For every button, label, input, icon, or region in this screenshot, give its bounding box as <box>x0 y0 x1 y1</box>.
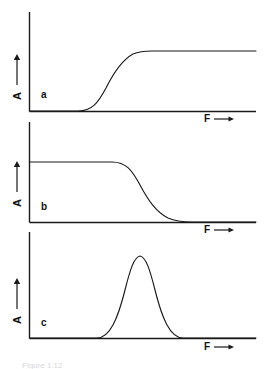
panel-b-plot <box>0 121 267 232</box>
right-arrow-icon <box>213 342 235 352</box>
panel-b: A b F <box>0 121 267 232</box>
panel-c-x-axis-label: F <box>204 342 210 352</box>
panel-a-curve <box>30 51 256 111</box>
panel-a-y-axis-label-group: A <box>8 52 26 108</box>
panel-c-curve <box>30 256 256 338</box>
panel-b-letter: b <box>41 202 47 212</box>
panel-b-curve <box>30 162 256 222</box>
panel-a-plot <box>0 0 267 121</box>
panel-c: A c F <box>0 232 267 369</box>
up-arrow-icon <box>8 276 26 310</box>
panel-c-y-axis-label: A <box>11 311 23 329</box>
figure-caption: Figure 1.12 <box>22 361 62 369</box>
figure-container: A a F A b <box>0 0 267 369</box>
panel-c-x-axis-label-group: F <box>204 342 235 352</box>
panel-a: A a F <box>0 0 267 121</box>
panel-c-y-axis-label-group: A <box>8 276 26 332</box>
up-arrow-icon <box>8 159 26 193</box>
panel-b-y-axis-label: A <box>11 194 23 212</box>
panel-a-letter: a <box>41 90 47 100</box>
panel-b-y-axis-label-group: A <box>8 159 26 215</box>
panel-c-letter: c <box>41 318 47 328</box>
up-arrow-icon <box>8 52 26 86</box>
panel-a-y-axis-label: A <box>11 87 23 105</box>
